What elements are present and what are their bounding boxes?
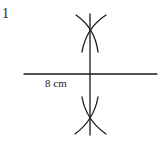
upper-arc-left <box>76 15 98 52</box>
segment-length-label: 8 cm <box>45 78 67 89</box>
construction-diagram <box>0 0 167 143</box>
upper-arc-right <box>82 15 106 52</box>
lower-arc-right <box>75 97 98 134</box>
lower-arc-left <box>82 97 106 134</box>
